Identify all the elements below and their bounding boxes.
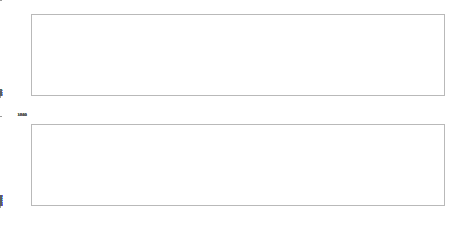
x-tick-mark [0,96,1,98]
x-axis-bottom: 1975G1986G1990200020172020C2021F2041T204… [0,206,458,232]
x-tick-mark [0,206,1,208]
figure-canvas: 174176178180182 102030405060708090100110… [0,0,458,232]
chart-panel-bottom: 1740176017801800182018401860 1975G1986G1… [0,116,458,232]
x-tick-label: 2562C [0,195,3,206]
chart-panel-top: 174176178180182 102030405060708090100110… [0,0,458,116]
x-tick-label: 200 [0,89,3,96]
